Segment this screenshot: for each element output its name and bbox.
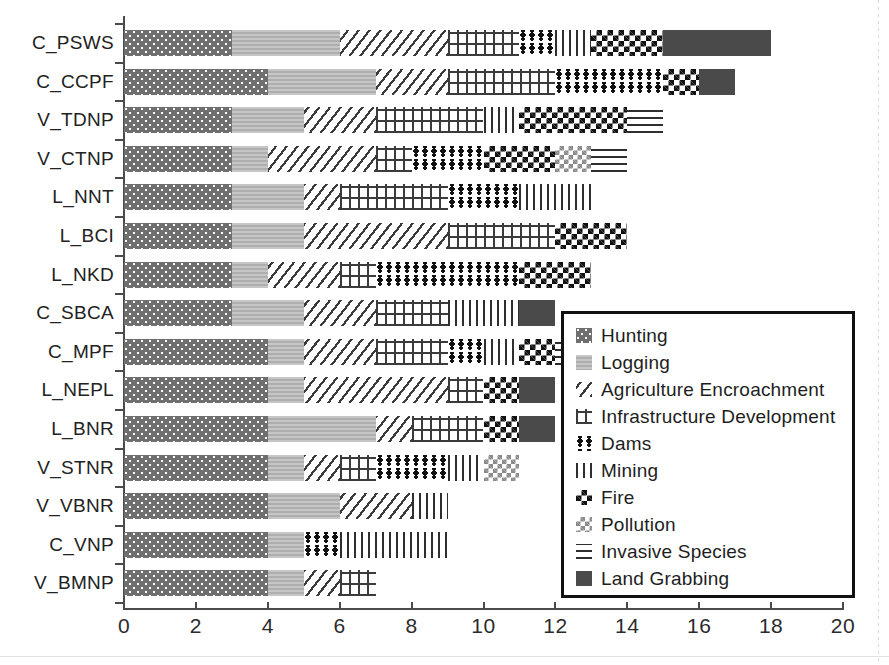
legend-item-list: HuntingLoggingAgriculture EncroachmentIn…: [576, 322, 842, 592]
bar-segment-fire: [591, 30, 663, 56]
bar-segment-infrastructure-development: [376, 146, 412, 172]
bar-segment-mining: [448, 300, 520, 326]
bar-segment-invasive-species: [627, 107, 663, 133]
bar-segment-mining: [519, 184, 591, 210]
y-axis-label: L_BCI: [0, 225, 114, 247]
bar-segment-infrastructure-development: [376, 300, 448, 326]
bar-segment-hunting: [124, 377, 268, 403]
bar-segment-agriculture-encroachment: [304, 570, 340, 596]
bar-segment-logging: [232, 223, 304, 249]
x-axis-tick: [123, 602, 125, 610]
bar-segment-agriculture-encroachment: [268, 146, 376, 172]
bar-segment-dams: [412, 146, 484, 172]
bar-segment-infrastructure-development: [412, 416, 484, 442]
legend-swatch-agriculture-encroachment-icon: [576, 382, 592, 397]
bar-segment-hunting: [124, 262, 232, 288]
y-axis-tick: [115, 486, 124, 488]
legend-swatch-logging-icon: [576, 355, 592, 370]
bar-segment-logging: [268, 339, 304, 365]
legend: HuntingLoggingAgriculture EncroachmentIn…: [561, 311, 855, 598]
y-axis-tick: [115, 563, 124, 565]
legend-label: Pollution: [601, 514, 676, 536]
bar-segment-dams: [555, 69, 663, 95]
bar-segment-logging: [268, 570, 304, 596]
bar-segment-dams: [448, 339, 484, 365]
bar-segment-land-grabbing: [519, 416, 555, 442]
bar-segment-agriculture-encroachment: [268, 262, 340, 288]
legend-item[interactable]: Mining: [576, 457, 842, 484]
y-axis-label: C_SBCA: [0, 302, 114, 324]
bar-segment-mining: [484, 107, 520, 133]
y-axis-tick: [115, 100, 124, 102]
bar-segment-logging: [232, 30, 340, 56]
y-axis-label: V_TDNP: [0, 109, 114, 131]
legend-swatch-invasive-species-icon: [576, 544, 592, 559]
bar-segment-dams: [304, 532, 340, 558]
x-axis-tick: [267, 602, 269, 610]
x-axis-tick-label: 18: [759, 614, 783, 638]
legend-label: Infrastructure Development: [601, 406, 835, 428]
bar-segment-agriculture-encroachment: [304, 223, 448, 249]
bar-segment-hunting: [124, 416, 268, 442]
legend-swatch-fire-icon: [576, 490, 592, 505]
bar-segment-mining: [412, 493, 448, 519]
bar-segment-infrastructure-development: [376, 107, 484, 133]
bar-segment-mining: [555, 30, 591, 56]
bar-segment-infrastructure-development: [448, 377, 484, 403]
legend-item[interactable]: Hunting: [576, 322, 842, 349]
bar-segment-agriculture-encroachment: [304, 339, 376, 365]
legend-item[interactable]: Invasive Species: [576, 538, 842, 565]
stacked-bar-chart: C_PSWSC_CCPFV_TDNPV_CTNPL_NNTL_BCIL_NKDC…: [0, 0, 889, 665]
bar-segment-agriculture-encroachment: [376, 416, 412, 442]
bar-segment-agriculture-encroachment: [376, 69, 448, 95]
bar-segment-dams: [376, 455, 448, 481]
legend-swatch-land-grabbing-icon: [576, 571, 592, 586]
bar-segment-logging: [268, 416, 376, 442]
bar-segment-logging: [268, 532, 304, 558]
bar-segment-fire: [519, 262, 591, 288]
x-axis-tick: [698, 602, 700, 610]
bar-segment-hunting: [124, 107, 232, 133]
bar-segment-logging: [232, 184, 304, 210]
x-axis-tick-label: 14: [615, 614, 639, 638]
y-axis-label: C_PSWS: [0, 32, 114, 54]
bar-segment-logging: [268, 455, 304, 481]
y-axis-label: L_BNR: [0, 418, 114, 440]
legend-label: Land Grabbing: [601, 568, 729, 590]
bar-segment-land-grabbing: [519, 377, 555, 403]
legend-item[interactable]: Agriculture Encroachment: [576, 376, 842, 403]
legend-item[interactable]: Land Grabbing: [576, 565, 842, 592]
x-axis-tick-label: 8: [406, 614, 418, 638]
y-axis-label: C_CCPF: [0, 71, 114, 93]
bar-segment-logging: [268, 377, 304, 403]
bar-segment-hunting: [124, 69, 268, 95]
legend-swatch-infrastructure-development-icon: [576, 409, 592, 424]
bar-segment-agriculture-encroachment: [304, 377, 448, 403]
legend-swatch-pollution-icon: [576, 517, 592, 532]
y-axis-tick: [115, 139, 124, 141]
y-axis-label: C_VNP: [0, 534, 114, 556]
x-axis-tick-label: 16: [687, 614, 711, 638]
legend-item[interactable]: Pollution: [576, 511, 842, 538]
legend-item[interactable]: Fire: [576, 484, 842, 511]
bar-segment-mining: [448, 455, 484, 481]
legend-swatch-hunting-icon: [576, 328, 592, 343]
bar-segment-infrastructure-development: [448, 30, 520, 56]
y-axis-tick: [115, 23, 124, 25]
bar-segment-land-grabbing: [519, 300, 555, 326]
legend-item[interactable]: Logging: [576, 349, 842, 376]
y-axis-tick: [115, 332, 124, 334]
x-axis-tick-label: 20: [831, 614, 855, 638]
legend-item[interactable]: Dams: [576, 430, 842, 457]
bar-segment-land-grabbing: [699, 69, 735, 95]
x-axis-tick: [842, 602, 844, 610]
bar-segment-agriculture-encroachment: [304, 184, 340, 210]
bar-segment-infrastructure-development: [376, 339, 448, 365]
bar-segment-fire: [484, 146, 556, 172]
legend-item[interactable]: Infrastructure Development: [576, 403, 842, 430]
y-axis-tick: [115, 293, 124, 295]
bar-segment-infrastructure-development: [448, 69, 556, 95]
y-axis-tick: [115, 62, 124, 64]
bar-segment-hunting: [124, 570, 268, 596]
x-axis-tick: [339, 602, 341, 610]
